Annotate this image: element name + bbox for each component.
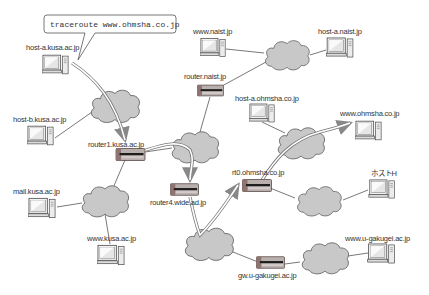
router-icon — [116, 149, 145, 161]
host-label: www.kusa.ac.jp — [86, 234, 136, 243]
host-label: host-a.ohmsha.co.jp — [235, 94, 299, 103]
host-host-h[interactable]: ホストH — [369, 169, 397, 198]
computer-icon — [249, 104, 274, 122]
host-label: ホストH — [371, 169, 397, 178]
computer-icon — [326, 38, 353, 57]
computer-icon — [28, 198, 55, 217]
link-mail-to-kusa-lan-2 — [57, 203, 82, 207]
cloud-kusa-lan-2 — [82, 186, 128, 217]
router-icon — [256, 257, 284, 269]
router-router4-wide[interactable]: router4.wide.ad.jp — [150, 184, 206, 207]
link-host-a-naist-to-naist-lan — [310, 50, 326, 55]
router-router1-kusa[interactable]: router1.kusa.ac.jp — [88, 140, 145, 161]
host-www-kusa[interactable]: www.kusa.ac.jp — [86, 234, 136, 265]
host-host-b-kusa[interactable]: host-b.kusa.ac.jp — [13, 115, 66, 145]
host-label: www.naist.jp — [192, 27, 232, 36]
host-label: mail.kusa.ac.jp — [13, 187, 60, 196]
host-mail-kusa[interactable]: mail.kusa.ac.jp — [13, 187, 60, 218]
host-host-a-kusa[interactable]: host-a.kusa.ac.jp — [26, 43, 79, 74]
computer-icon — [355, 121, 381, 140]
link-rt0-to-host-h-lan — [270, 188, 295, 198]
computer-icon — [200, 39, 225, 57]
router-icon — [243, 180, 272, 192]
host-www-u-gakugei[interactable]: www.u-gakugei.ac.jp — [344, 234, 410, 263]
computer-icon — [368, 244, 395, 263]
router-label: router4.wide.ad.jp — [150, 198, 206, 207]
router-rt0-ohmsha[interactable]: rt0.ohmsha.co.jp — [232, 168, 284, 192]
cloud-backbone-center — [172, 132, 218, 163]
host-host-a-naist[interactable]: host-a.naist.jp — [318, 27, 362, 57]
router-label: gw.u-gakugei.ac.jp — [238, 271, 297, 280]
cloud-host-h-lan — [297, 187, 341, 216]
router-label: router1.kusa.ac.jp — [88, 140, 144, 149]
host-label: host-a.kusa.ac.jp — [26, 43, 79, 52]
router-icon — [197, 85, 223, 96]
host-label: host-b.kusa.ac.jp — [13, 115, 66, 124]
link-gakugei-lan-to-www-gakugei — [348, 253, 368, 256]
cloud-u-gakugei-lan — [302, 243, 348, 274]
host-label: host-a.naist.jp — [318, 27, 362, 36]
cloud-backbone-lower — [185, 228, 233, 260]
network-diagram: traceroute www.ohmsha.co.jp host-a.kusa.… — [0, 0, 429, 295]
link-router-naist-to-naist-lan — [222, 62, 266, 86]
link-router-naist-to-backbone — [200, 97, 210, 132]
command-text: traceroute www.ohmsha.co.jp — [50, 20, 180, 29]
computer-icon — [42, 55, 68, 74]
command-speech-bubble: traceroute www.ohmsha.co.jp — [44, 15, 180, 60]
host-host-a-ohmsha[interactable]: host-a.ohmsha.co.jp — [235, 94, 299, 122]
computer-icon — [27, 126, 53, 145]
cloud-naist-lan — [265, 41, 309, 70]
router-gw-u-gakugei[interactable]: gw.u-gakugei.ac.jp — [238, 257, 297, 280]
cloud-kusa-lan-1 — [91, 90, 139, 122]
computer-icon — [97, 245, 124, 264]
router-label: router.naist.jp — [184, 72, 226, 81]
host-www-naist[interactable]: www.naist.jp — [192, 27, 232, 57]
router-label: rt0.ohmsha.co.jp — [232, 168, 284, 177]
link-gakugei-to-gakugei-lan — [285, 262, 300, 264]
link-host-h-lan-to-host-h — [343, 190, 368, 200]
host-label: www.u-gakugei.ac.jp — [344, 234, 410, 243]
host-label: www.ohmsha.co.jp — [339, 109, 399, 118]
router-icon — [170, 184, 198, 196]
computer-icon — [369, 180, 394, 198]
link-host-a-ohmsha-to-ohmsha-lan — [262, 122, 285, 133]
router-router-naist[interactable]: router.naist.jp — [184, 72, 226, 96]
link-router1-to-kusa-lan-2 — [113, 160, 125, 188]
link-www-naist-to-naist-lan — [226, 49, 264, 53]
